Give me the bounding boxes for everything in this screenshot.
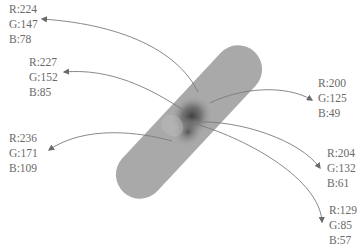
red-value: R:227	[29, 55, 58, 70]
figure-canvas: R:224 G:147 B:78 R:227 G:152 B:85 R:236 …	[0, 0, 359, 249]
green-value: G:85	[329, 218, 357, 233]
red-value: R:236	[9, 131, 38, 146]
blue-value: B:57	[329, 233, 357, 248]
annotation-label-a4: R:200 G:125 B:49	[318, 76, 347, 121]
red-value: R:200	[318, 76, 347, 91]
green-value: G:152	[29, 70, 58, 85]
red-value: R:204	[327, 146, 356, 161]
arrow-a2	[64, 71, 183, 110]
blue-value: B:78	[9, 32, 38, 47]
green-value: G:125	[318, 91, 347, 106]
annotation-label-a2: R:227 G:152 B:85	[29, 55, 58, 100]
annotation-label-a5: R:204 G:132 B:61	[327, 146, 356, 191]
red-value: R:224	[9, 2, 38, 17]
green-value: G:171	[9, 146, 38, 161]
blue-value: B:49	[318, 106, 347, 121]
blue-value: B:109	[9, 161, 38, 176]
bandage-diagram	[0, 0, 359, 249]
blue-value: B:85	[29, 85, 58, 100]
bandage-shape	[106, 35, 272, 208]
arrow-a1	[42, 19, 198, 92]
annotation-label-a1: R:224 G:147 B:78	[9, 2, 38, 47]
blue-value: B:61	[327, 176, 356, 191]
green-value: G:147	[9, 17, 38, 32]
annotation-label-a3: R:236 G:171 B:109	[9, 131, 38, 176]
red-value: R:129	[329, 203, 357, 218]
annotation-label-a6: R:129 G:85 B:57	[329, 203, 357, 248]
green-value: G:132	[327, 161, 356, 176]
arrow-a6	[196, 124, 322, 222]
